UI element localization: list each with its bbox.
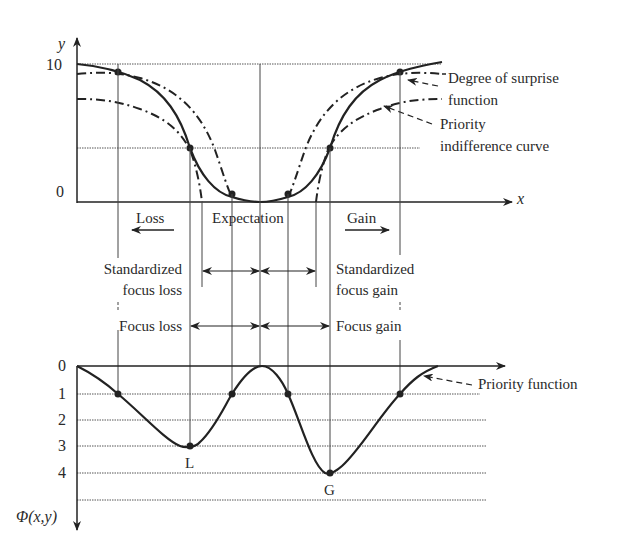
phi-tick-2: 2 <box>58 411 66 428</box>
phi-tick-4: 4 <box>58 464 66 481</box>
priority-indiff-leader <box>384 106 432 124</box>
label-focus-loss: Focus loss <box>78 318 182 335</box>
annotation-priority-line1: Priority <box>440 116 486 133</box>
phi-point-L <box>187 443 194 450</box>
y-tick-0: 0 <box>56 183 64 200</box>
label-std-focus-gain-2: focus gain <box>336 282 398 299</box>
phi-tick-0: 0 <box>58 357 66 374</box>
phi-tick-1: 1 <box>58 385 66 402</box>
label-gain: Gain <box>347 210 376 227</box>
point-label-G: G <box>324 482 335 499</box>
label-std-focus-loss-1: Standardized <box>78 261 182 278</box>
phi-axis-label: Φ(x,y) <box>16 508 57 525</box>
annotation-surprise-line1: Degree of surprise <box>448 70 559 87</box>
point-label-L: L <box>185 455 194 472</box>
surprise-leader <box>408 80 438 86</box>
label-std-focus-loss-2: focus loss <box>78 282 182 299</box>
phi-point-std-gain <box>397 391 404 398</box>
lower-plot <box>77 366 505 530</box>
phi-point-G <box>327 470 334 477</box>
annotation-priority-function: Priority function <box>478 376 578 393</box>
phi-tick-3: 3 <box>58 437 66 454</box>
label-focus-gain: Focus gain <box>336 318 401 335</box>
y-tick-10: 10 <box>46 56 62 73</box>
label-loss: Loss <box>136 210 164 227</box>
label-expectation: Expectation <box>212 210 284 227</box>
annotation-surprise-line2: function <box>448 92 498 109</box>
label-std-focus-gain-1: Standardized <box>336 261 414 278</box>
x-axis-label: x <box>517 190 524 207</box>
priority-function-leader <box>424 376 472 385</box>
phi-point-left-exp <box>229 391 236 398</box>
annotation-priority-line2: indifference curve <box>440 138 549 155</box>
y-axis-label: y <box>58 35 65 52</box>
phi-point-right-exp <box>285 391 292 398</box>
phi-point-std-loss <box>115 391 122 398</box>
